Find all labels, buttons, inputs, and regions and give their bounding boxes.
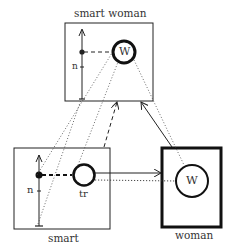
woman-node-label: W bbox=[186, 175, 198, 187]
woman-to-blend-arrow bbox=[141, 102, 172, 147]
smart-woman-box-label: smart woman bbox=[74, 8, 146, 19]
trait-node-circle bbox=[74, 165, 95, 186]
smart-woman-node-label: W bbox=[119, 46, 130, 57]
scale-point-dot bbox=[79, 49, 84, 54]
conceptual-blend-diagram: smart woman n W smart n tr woman W bbox=[0, 0, 235, 249]
smart-woman-box bbox=[65, 23, 153, 101]
smart-woman-axis-label: n bbox=[72, 62, 78, 71]
smart-axis-label: n bbox=[27, 185, 33, 195]
smart-to-blend-arrow bbox=[104, 102, 117, 147]
trait-node-label: tr bbox=[79, 189, 88, 199]
woman-box bbox=[162, 148, 221, 227]
woman-box-label: woman bbox=[175, 230, 213, 241]
smart-box-label: smart bbox=[48, 233, 79, 244]
scale-point-dot bbox=[36, 172, 43, 179]
